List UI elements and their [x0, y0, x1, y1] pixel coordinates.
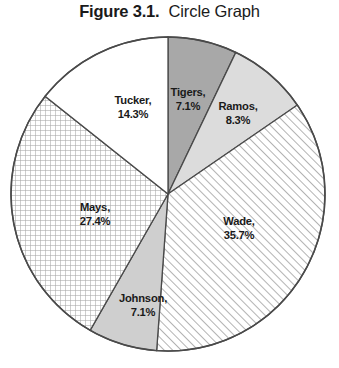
slice-name-text: Johnson, — [119, 292, 167, 304]
slice-name-text: Wade, — [223, 215, 255, 227]
slice-name-text: Mays, — [80, 201, 110, 213]
slice-value-text: 8.3% — [226, 114, 251, 126]
pie-slices-group — [11, 37, 325, 351]
slice-label-wade: Wade,35.7% — [223, 215, 255, 241]
slice-value-text: 14.3% — [118, 108, 149, 120]
slice-label-tigers: Tigers,7.1% — [170, 86, 205, 112]
pie-chart-svg: Tigers,7.1%Ramos,8.3%Wade,35.7%Johnson,7… — [0, 0, 339, 368]
pie-chart: Tigers,7.1%Ramos,8.3%Wade,35.7%Johnson,7… — [0, 0, 339, 368]
slice-value-text: 7.1% — [131, 306, 156, 318]
slice-name-text: Tigers, — [170, 86, 205, 98]
slice-label-mays: Mays,27.4% — [80, 201, 111, 227]
slice-value-text: 27.4% — [80, 215, 111, 227]
slice-name-text: Ramos, — [218, 100, 257, 112]
slice-value-text: 7.1% — [176, 100, 201, 112]
slice-name-text: Tucker, — [115, 94, 152, 106]
slice-value-text: 35.7% — [224, 229, 255, 241]
figure-container: Figure 3.1.Circle Graph Tigers,7.1%Ramos… — [0, 0, 339, 368]
slice-label-tucker: Tucker,14.3% — [115, 94, 152, 120]
